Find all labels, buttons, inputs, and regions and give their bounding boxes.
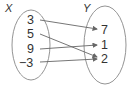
domain-value: 3 — [27, 14, 34, 27]
range-label: Y — [83, 3, 90, 14]
range-value: 2 — [101, 53, 108, 66]
mapping-diagram-canvas — [0, 0, 130, 88]
domain-value: 9 — [27, 43, 34, 56]
domain-label: X — [5, 3, 12, 14]
range-value: 7 — [101, 24, 108, 37]
domain-value: 5 — [27, 28, 34, 41]
domain-value: −3 — [19, 57, 33, 70]
range-value: 1 — [101, 39, 108, 52]
